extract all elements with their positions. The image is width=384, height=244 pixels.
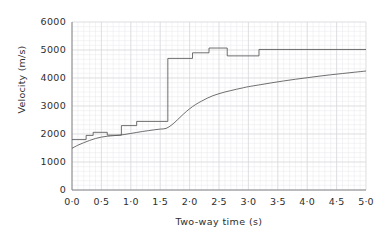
x-tick-label: 3·0: [233, 196, 263, 207]
major-grid: [72, 22, 366, 190]
x-tick-label: 0·0: [57, 196, 87, 207]
x-tick-label: 4·0: [292, 196, 322, 207]
x-tick-label: 3·5: [263, 196, 293, 207]
x-tick-label: 2·5: [204, 196, 234, 207]
x-tick-label: 1·0: [116, 196, 146, 207]
velocity-vs-twoway-time-chart: 0100020003000400050006000 Velocity (m/s)…: [0, 0, 384, 244]
x-tick-label: 0·5: [86, 196, 116, 207]
plot-area: [0, 0, 384, 244]
x-tick-label: 2·0: [175, 196, 205, 207]
x-tick-label: 4·5: [322, 196, 352, 207]
x-tick-label: 1·5: [145, 196, 175, 207]
x-tick-label: 5·0: [351, 196, 381, 207]
